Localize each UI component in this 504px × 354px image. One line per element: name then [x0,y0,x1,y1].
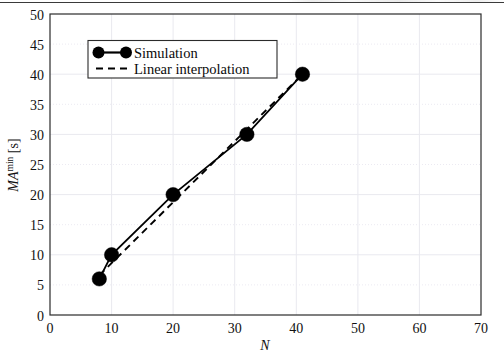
y-axis-title-unit: [s] [6,138,21,153]
figure-container: 50 45 40 35 30 25 20 15 10 5 0 0 10 20 3… [0,0,504,354]
y-tick-50: 50 [30,8,44,23]
legend-label-simulation: Simulation [134,45,198,61]
line-chart: 50 45 40 35 30 25 20 15 10 5 0 0 10 20 3… [0,0,504,354]
x-tick-50: 50 [351,321,365,336]
x-axis-title: N [259,338,270,353]
data-point-marker [104,248,118,262]
data-point-marker [240,127,254,141]
y-tick-0: 0 [37,309,44,324]
y-tick-30: 30 [30,128,44,143]
x-axis-tick-labels: 0 10 20 30 40 50 60 70 [47,321,489,336]
legend-marker-icon [93,47,105,59]
series-simulation-markers [92,67,310,286]
y-tick-40: 40 [30,68,44,83]
x-tick-70: 70 [474,321,488,336]
y-tick-20: 20 [30,188,44,203]
chart-legend: Simulation Linear interpolation [88,41,277,79]
page-header-artifact [286,0,504,3]
legend-marker-icon [120,47,132,59]
y-axis-title: MAmin [s] [5,138,21,192]
svg-text:MAmin [s]: MAmin [s] [5,138,21,192]
x-tick-30: 30 [228,321,242,336]
y-axis-title-superscript: min [5,156,15,171]
y-tick-5: 5 [37,278,44,293]
y-tick-35: 35 [30,98,44,113]
y-tick-25: 25 [30,158,44,173]
data-point-marker [295,67,309,81]
y-axis-title-main: MA [6,171,21,193]
x-tick-40: 40 [289,321,303,336]
legend-label-linear-interpolation: Linear interpolation [134,61,250,77]
x-tick-10: 10 [105,321,119,336]
y-tick-10: 10 [30,248,44,263]
data-point-marker [166,187,180,201]
data-point-marker [92,272,106,286]
x-tick-60: 60 [412,321,426,336]
x-tick-20: 20 [166,321,180,336]
x-tick-0: 0 [47,321,54,336]
y-axis-tick-labels: 50 45 40 35 30 25 20 15 10 5 0 [30,8,44,324]
y-tick-45: 45 [30,38,44,53]
y-tick-15: 15 [30,218,44,233]
